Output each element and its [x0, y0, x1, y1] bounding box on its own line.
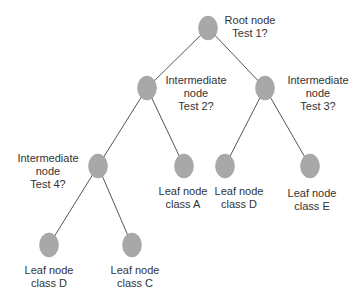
edges — [49, 28, 310, 245]
label-line: Test 1? — [225, 27, 276, 40]
label-line: class A — [159, 198, 208, 211]
node-leafC — [123, 233, 142, 257]
label-line: Leaf node — [215, 185, 264, 198]
node-root — [199, 16, 218, 40]
label-line: Intermediate — [165, 74, 226, 87]
label-line: Leaf node — [111, 264, 160, 277]
label-line: Test 3? — [287, 100, 348, 113]
node-leafD2 — [40, 233, 59, 257]
node-label-leafE: Leaf nodeclass E — [288, 187, 337, 213]
node-int2 — [138, 76, 157, 100]
label-line: class E — [288, 200, 337, 213]
node-label-root: Root nodeTest 1? — [225, 14, 276, 40]
label-line: class D — [215, 198, 264, 211]
node-label-leafD2: Leaf nodeclass D — [25, 264, 74, 290]
label-line: Test 4? — [17, 178, 78, 191]
label-line: Leaf node — [25, 264, 74, 277]
label-line: node — [287, 87, 348, 100]
label-line: class C — [111, 277, 160, 290]
edge-int3-leafD1 — [225, 88, 265, 166]
node-label-leafC: Leaf nodeclass C — [111, 264, 160, 290]
label-line: node — [165, 87, 226, 100]
label-line: node — [17, 165, 78, 178]
label-line: Root node — [225, 14, 276, 27]
node-label-leafD1: Leaf nodeclass D — [215, 185, 264, 211]
node-label-int2: IntermediatenodeTest 2? — [165, 74, 226, 113]
node-label-leafA: Leaf nodeclass A — [159, 185, 208, 211]
label-line: Leaf node — [159, 185, 208, 198]
label-line: Leaf node — [288, 187, 337, 200]
nodes — [40, 16, 320, 257]
label-line: Test 2? — [165, 100, 226, 113]
label-line: class D — [25, 277, 74, 290]
node-int3 — [256, 76, 275, 100]
edge-int4-leafC — [98, 166, 132, 245]
node-leafD1 — [216, 154, 235, 178]
node-leafA — [175, 154, 194, 178]
node-label-int3: IntermediatenodeTest 3? — [287, 74, 348, 113]
label-line: Intermediate — [17, 152, 78, 165]
label-line: Intermediate — [287, 74, 348, 87]
node-label-int4: IntermediatenodeTest 4? — [17, 152, 78, 191]
node-leafE — [301, 154, 320, 178]
tree-canvas — [0, 0, 356, 300]
edge-int2-int4 — [98, 88, 147, 166]
node-int4 — [89, 154, 108, 178]
